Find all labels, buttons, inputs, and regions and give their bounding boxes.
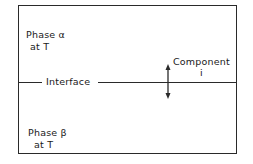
- phase-beta-temperature: at T: [34, 139, 53, 150]
- phase-beta-label: Phase β: [28, 127, 67, 138]
